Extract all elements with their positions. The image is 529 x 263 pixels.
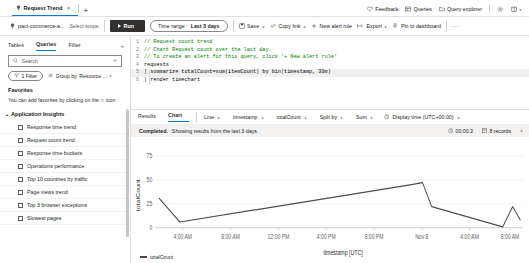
more-commands-button[interactable]: ··· — [452, 23, 459, 29]
new-alert-rule-button[interactable]: New alert rule — [311, 23, 352, 29]
chevron-down-icon: ∨ — [519, 7, 522, 12]
x-tick-label: 8:00 AM — [221, 233, 240, 240]
group-label: Application Insights — [11, 111, 64, 117]
tab-results[interactable]: Results — [138, 113, 163, 122]
code-text: | summarize totalCount=sum(itemCount) by… — [144, 69, 331, 75]
tab-chart[interactable]: Chart — [168, 112, 189, 122]
chevron-down-icon: ∨ — [304, 115, 307, 120]
link-icon — [270, 23, 277, 29]
collapse-panel-icon[interactable]: « — [121, 43, 124, 49]
run-label: Run — [124, 23, 134, 29]
pin-to-dashboard-button[interactable]: Pin to dashboard — [392, 23, 441, 29]
query-item-response-time-trend[interactable]: Response time trend — [0, 121, 130, 134]
clock-icon — [384, 114, 390, 120]
query-item-label: Request count trend — [27, 137, 75, 143]
funnel-icon — [14, 73, 19, 78]
query-tab-request-trend[interactable]: Request Trend × — [12, 3, 78, 16]
query-explorer-button[interactable]: Query explorer — [439, 6, 482, 12]
query-duration-value: 00:00.3 — [456, 128, 473, 134]
filter-row: 1 Filter Group by: Resource ... ∨ — [8, 71, 122, 82]
x-axis-select[interactable]: timestamp ∨ — [233, 114, 263, 120]
command-bar: pact-commerce-a... Select scope Run Time… — [0, 17, 529, 36]
query-item-label: Response time buckets — [27, 150, 82, 156]
export-button[interactable]: Export ∨ — [357, 23, 387, 29]
right-panel: 1 // Request count trend 2 // Chart Requ… — [131, 36, 529, 263]
run-button[interactable]: Run — [110, 20, 145, 33]
command-divider-3 — [446, 20, 447, 32]
query-item-response-time-buckets[interactable]: Response time buckets — [0, 147, 130, 160]
log-analytics-window: Request Trend × + Feedback Queries — [0, 0, 529, 263]
series-line-totalCount — [159, 183, 520, 227]
command-divider — [104, 20, 105, 32]
time-range-picker[interactable]: Time range : Last 3 days — [150, 20, 227, 33]
code-line: 5 | summarize totalCount=sum(itemCount) … — [131, 69, 529, 77]
query-item-label: Response time trend — [27, 124, 76, 130]
export-label: Export — [367, 23, 382, 29]
query-item-top-3-browser-exceptions[interactable]: Top 3 browser exceptions — [0, 199, 130, 212]
tab-tables[interactable]: Tables — [8, 42, 24, 51]
query-item-page-views-trend[interactable]: Page views trend — [0, 186, 130, 199]
clock-icon — [448, 128, 454, 134]
query-item-operations-performance[interactable]: Operations performance — [0, 160, 130, 173]
aggregation-select[interactable]: Sum ∨ — [356, 114, 373, 120]
left-panel-tabs: Tables Queries Filter « — [0, 36, 130, 51]
chart-icon — [18, 125, 23, 130]
tab-queries[interactable]: Queries — [36, 41, 56, 51]
status-message: Showing results from the last 3 days. — [172, 128, 259, 134]
bulb-icon — [16, 5, 21, 11]
queries-label: Queries — [413, 6, 432, 12]
query-editor[interactable]: 1 // Request count trend 2 // Chart Requ… — [131, 36, 529, 109]
query-item-top-10-countries-by-traffic[interactable]: Top 10 countries by traffic — [0, 173, 130, 186]
chart-type-select[interactable]: Line ∨ — [204, 114, 220, 120]
y-axis-value: totalCount — [277, 114, 301, 120]
close-icon[interactable]: × — [65, 5, 74, 11]
export-icon — [357, 23, 364, 29]
new-tab-button[interactable]: + — [79, 7, 92, 16]
help-button[interactable]: ∨ — [511, 6, 523, 13]
split-by-select[interactable]: Split by ∨ — [320, 114, 343, 120]
favorites-description: You can add favorites by clicking on the… — [0, 93, 130, 104]
sidebar-scrollbar[interactable] — [126, 109, 129, 237]
feedback-button[interactable]: Feedback — [367, 6, 398, 12]
list-icon — [48, 73, 53, 78]
chart-icon — [18, 177, 23, 182]
copy-link-button[interactable]: Copy link ∨ — [270, 23, 306, 29]
line-number: 5 — [131, 69, 144, 75]
y-axis-select[interactable]: totalCount ∨ — [277, 114, 307, 120]
gear-icon[interactable] — [497, 6, 504, 13]
keyboard-icon[interactable]: ⎂ — [113, 57, 117, 64]
header-actions: Feedback Queries Query explorer — [367, 5, 529, 16]
select-scope-button[interactable]: Select scope — [69, 23, 98, 29]
header-divider — [489, 5, 490, 13]
chevron-down-icon: ∨ — [384, 24, 387, 29]
line-number: 6 — [131, 77, 144, 83]
queries-icon — [405, 6, 411, 12]
tab-filter[interactable]: Filter — [68, 42, 80, 51]
group-application-insights[interactable]: ▴ Application Insights — [0, 104, 130, 121]
query-item-request-count-trend[interactable]: Request count trend — [0, 134, 130, 147]
chart-container: 0255075 4:00 AM8:00 AM12:00 PM4:00 PM8:0… — [131, 137, 529, 263]
code-text: // Chart Request count over the last day… — [144, 47, 272, 53]
code-line: 4 requests — [131, 62, 529, 70]
code-fold-guide — [149, 69, 150, 85]
chevron-down-icon[interactable]: ∨ — [520, 128, 523, 133]
save-icon — [239, 23, 245, 29]
x-tick-label: 4:00 AM — [460, 233, 479, 240]
x-axis-value: timestamp — [233, 114, 257, 120]
queries-button[interactable]: Queries — [405, 6, 432, 12]
scope-resource[interactable]: pact-commerce-a... — [10, 23, 64, 29]
results-toolbar: Results Chart Line ∨ timestamp ∨ totalCo… — [131, 109, 529, 124]
filter-pill-label: 1 Filter — [22, 73, 38, 79]
save-button[interactable]: Save ∨ — [239, 23, 265, 29]
code-line: 2 // Chart Request count over the last d… — [131, 47, 529, 55]
group-by-select[interactable]: Group by: Resource ... ∨ — [48, 73, 122, 79]
filter-pill[interactable]: 1 Filter — [8, 71, 43, 82]
chart-legend[interactable]: totalCount — [140, 254, 173, 260]
book-icon — [511, 6, 518, 13]
search-input[interactable]: Search ⎂ — [8, 55, 122, 67]
query-item-label: Operations performance — [27, 163, 84, 169]
bulb-icon — [10, 23, 15, 29]
timechart[interactable]: 0255075 4:00 AM8:00 AM12:00 PM4:00 PM8:0… — [131, 141, 529, 263]
query-item-slowest-pages[interactable]: Slowest pages — [0, 212, 130, 225]
display-time-select[interactable]: Display time (UTC+00:00) ∨ — [384, 114, 460, 120]
